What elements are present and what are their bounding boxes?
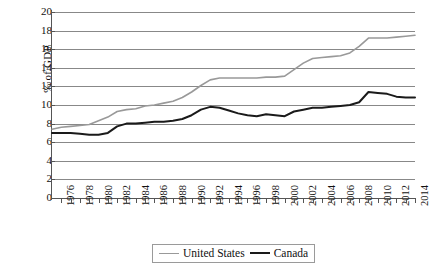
y-tick-mark <box>51 179 55 180</box>
x-tick-mark <box>387 199 388 203</box>
x-tick-mark <box>257 199 258 203</box>
y-tick-mark <box>51 142 55 143</box>
x-tick-mark <box>71 199 72 203</box>
x-tick-mark <box>313 199 314 203</box>
y-tick-mark <box>51 49 55 50</box>
y-tick-label: 12 <box>26 80 52 91</box>
x-tick-mark <box>368 199 369 203</box>
x-tick-mark <box>182 199 183 203</box>
gridline <box>52 49 415 50</box>
legend-swatch-icon <box>250 252 270 254</box>
y-tick-mark <box>51 161 55 162</box>
y-tick-label: 14 <box>26 62 52 73</box>
x-tick-mark <box>238 199 239 203</box>
x-tick-mark <box>322 199 323 203</box>
y-tick-mark <box>51 31 55 32</box>
x-tick-mark <box>294 199 295 203</box>
x-tick-mark <box>341 199 342 203</box>
x-tick-mark <box>126 199 127 203</box>
x-tick-mark <box>173 199 174 203</box>
y-tick-mark <box>51 105 55 106</box>
y-tick-label: 6 <box>26 136 52 147</box>
x-tick-mark <box>229 199 230 203</box>
gridline <box>52 68 415 69</box>
legend-item-united-states[interactable]: United States <box>159 246 245 260</box>
line-chart: % of GDP 20181614121086420 1976197819801… <box>0 0 432 269</box>
x-tick-mark <box>145 199 146 203</box>
gridline <box>52 179 415 180</box>
x-tick-mark <box>331 199 332 203</box>
x-tick-label: 2014 <box>419 185 430 206</box>
y-tick-mark <box>51 68 55 69</box>
y-tick-mark <box>51 198 55 199</box>
gridline <box>52 161 415 162</box>
x-tick-mark <box>117 199 118 203</box>
legend-label: United States <box>183 246 245 260</box>
legend-item-canada[interactable]: Canada <box>250 246 308 260</box>
gridline <box>52 86 415 87</box>
x-tick-mark <box>201 199 202 203</box>
legend-label: Canada <box>274 246 308 260</box>
legend-swatch-icon <box>159 253 179 254</box>
y-tick-label: 20 <box>26 6 52 17</box>
x-tick-mark <box>154 199 155 203</box>
y-tick-label: 4 <box>26 155 52 166</box>
y-tick-mark <box>51 12 55 13</box>
x-tick-mark <box>247 199 248 203</box>
y-tick-label: 0 <box>26 192 52 203</box>
y-tick-label: 16 <box>26 43 52 54</box>
x-tick-mark <box>378 199 379 203</box>
x-tick-mark <box>210 199 211 203</box>
y-tick-label: 18 <box>26 25 52 36</box>
x-tick-mark <box>350 199 351 203</box>
y-tick-label: 10 <box>26 99 52 110</box>
x-tick-mark <box>99 199 100 203</box>
x-tick-mark <box>406 199 407 203</box>
plot-area <box>52 12 415 198</box>
gridline <box>52 31 415 32</box>
x-tick-mark <box>61 199 62 203</box>
x-tick-mark <box>89 199 90 203</box>
gridline <box>52 124 415 125</box>
gridline <box>52 12 415 13</box>
x-tick-mark <box>396 199 397 203</box>
gridline <box>52 142 415 143</box>
x-tick-mark <box>415 199 416 203</box>
x-tick-mark <box>266 199 267 203</box>
x-tick-mark <box>136 199 137 203</box>
y-axis-tick-labels: 20181614121086420 <box>18 0 52 269</box>
gridline <box>52 105 415 106</box>
y-tick-label: 8 <box>26 118 52 129</box>
x-tick-mark <box>192 199 193 203</box>
x-tick-mark <box>359 199 360 203</box>
y-tick-label: 2 <box>26 173 52 184</box>
y-tick-mark <box>51 86 55 87</box>
x-tick-mark <box>164 199 165 203</box>
chart-legend: United StatesCanada <box>152 244 315 263</box>
x-tick-mark <box>108 199 109 203</box>
x-tick-mark <box>303 199 304 203</box>
y-tick-mark <box>51 124 55 125</box>
x-tick-mark <box>80 199 81 203</box>
x-tick-mark <box>275 199 276 203</box>
x-tick-mark <box>285 199 286 203</box>
x-tick-mark <box>220 199 221 203</box>
